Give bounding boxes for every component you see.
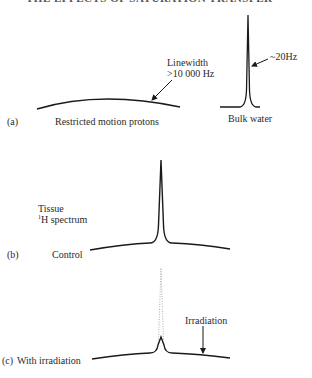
bulk-water-linewidth: ~20Hz — [270, 51, 297, 62]
tissue-label: Tissue — [38, 203, 64, 214]
panel-c-label: (c) — [2, 355, 13, 366]
linewidth-20hz-arrow — [252, 59, 268, 66]
original-peak-dotted — [159, 268, 164, 340]
bulk-water-caption: Bulk water — [228, 113, 272, 124]
h-spectrum-label: 1H spectrum — [38, 214, 87, 225]
linewidth-arrow — [152, 80, 172, 100]
panel-a-label: (a) — [7, 116, 18, 127]
linewidth-value: >10 000 Hz — [167, 68, 214, 79]
irradiated-spectrum — [92, 337, 230, 359]
irradiation-label: Irradiation — [185, 315, 227, 326]
with-irradiation-caption: With irradiation — [17, 355, 81, 366]
panel-b-label: (b) — [7, 249, 19, 260]
spectra-drawing — [0, 0, 312, 378]
bulk-water-peak — [220, 15, 260, 107]
broad-component-curve — [37, 99, 180, 109]
control-spectrum — [90, 160, 230, 250]
nmr-saturation-transfer-figure: THE EFFECTS OF SATURATION TRANSFER Linew… — [0, 0, 312, 378]
linewidth-label: Linewidth — [167, 57, 208, 68]
control-caption: Control — [52, 249, 83, 260]
restricted-motion-caption: Restricted motion protons — [55, 116, 159, 127]
